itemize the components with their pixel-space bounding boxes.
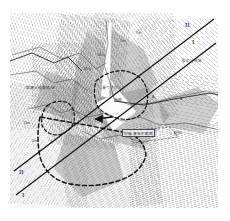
annotation-point-a-south: A — [140, 163, 143, 167]
section-label-I-bottom-left: I — [22, 191, 24, 199]
movement-arrow-group — [96, 116, 112, 122]
annotation-unit-dm-southwest: Dm — [24, 121, 30, 125]
annotation-note-box-lower: 旧崩壊地形範囲 — [122, 129, 155, 137]
annotation-note-left: 崩壊土砂堆積域 — [26, 85, 55, 90]
figure-root: 崩壊土砂堆積域 滑りブロック 頭部 旧崩壊地形範囲 転石 Dm Tm Mca M… — [0, 0, 230, 221]
road-trace-east — [114, 93, 218, 105]
dashed-boundary-west-block — [42, 101, 75, 135]
annotation-unit-dm-north: Dm — [120, 39, 126, 43]
section-label-I-top-right: I — [192, 38, 194, 46]
annotation-point-a-east: A — [152, 95, 155, 99]
annotation-note-right: 裂の分布域 — [182, 58, 203, 63]
annotation-note-center-mid: 頭部 — [114, 97, 122, 102]
annotation-point-a-far-east: A — [180, 97, 183, 101]
dashed-boundary-landslide-envelope — [38, 117, 146, 186]
annotation-unit-tm: Tm — [136, 31, 141, 35]
map-vector-overlay — [10, 13, 218, 208]
section-label-II-bottom-left: II — [19, 168, 24, 176]
annotation-unit-mcg: Mcg — [84, 67, 91, 71]
annotation-note-box-small: 転石 — [174, 130, 182, 135]
dashed-boundary-central-block — [94, 71, 147, 120]
section-line-II — [14, 19, 214, 171]
annotation-unit-dm-south: Dm — [32, 139, 38, 143]
annotation-unit-mca: Mca — [98, 53, 105, 57]
section-label-II-top-right: II — [185, 21, 190, 29]
annotation-note-center-top: 滑りブロック — [102, 85, 127, 90]
section-line-I — [16, 43, 216, 195]
map-plate: 崩壊土砂堆積域 滑りブロック 頭部 旧崩壊地形範囲 転石 Dm Tm Mca M… — [10, 13, 218, 208]
